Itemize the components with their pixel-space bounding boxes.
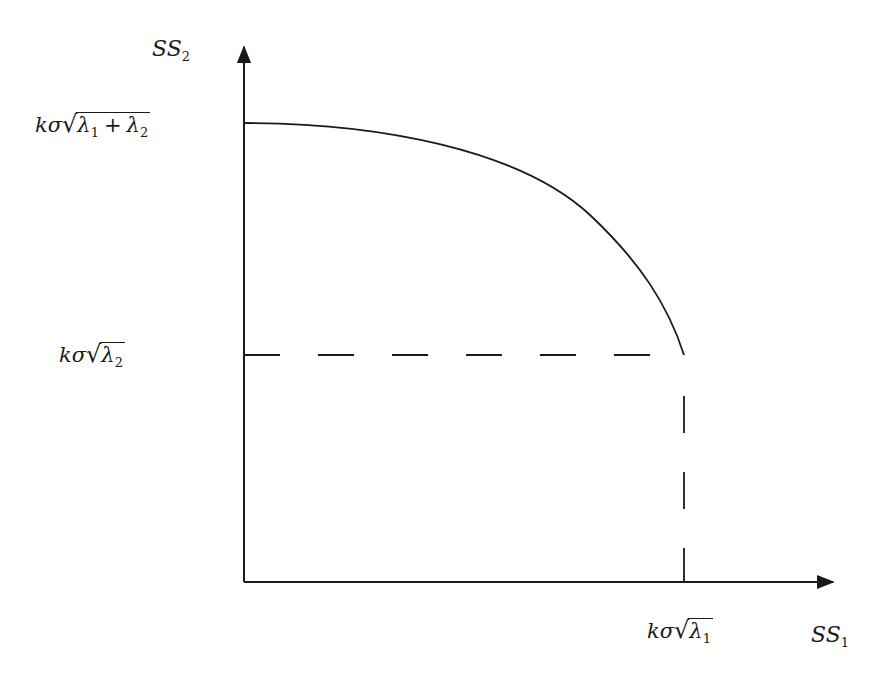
lambda-2-sub: 2 <box>140 125 148 140</box>
y-tick-upper: kσ√λ1+λ2 <box>35 112 150 139</box>
sqrt-symbol: √λ1 <box>674 618 713 645</box>
diagram-graphics <box>0 0 880 674</box>
lambda-2-sub: 2 <box>115 355 123 370</box>
x-tick: kσ√λ1 <box>647 618 713 645</box>
y-tick-upper-prefix: kσ <box>35 113 62 137</box>
y-axis-label-sub: 2 <box>182 49 190 64</box>
x-axis-label: SS1 <box>811 624 849 649</box>
x-axis-label-sub: 1 <box>841 635 849 650</box>
x-axis-label-base: SS <box>811 622 841 647</box>
y-axis-label-base: SS <box>152 36 182 61</box>
y-axis-label: SS2 <box>152 38 190 63</box>
lambda-1-sub: 1 <box>91 125 99 140</box>
plus-operator: + <box>99 113 127 137</box>
lambda-1: λ <box>689 619 702 643</box>
lambda-2: λ <box>101 343 114 367</box>
sqrt-symbol: √λ1+λ2 <box>62 112 150 139</box>
lambda-2: λ <box>127 113 140 137</box>
x-tick-prefix: kσ <box>647 619 674 643</box>
diagram-canvas: SS2 kσ√λ1+λ2 kσ√λ2 kσ√λ1 SS1 <box>0 0 880 674</box>
lambda-1-sub: 1 <box>703 631 711 646</box>
boundary-curve <box>244 123 684 355</box>
lambda-1: λ <box>77 113 90 137</box>
sqrt-symbol: √λ2 <box>86 342 125 369</box>
y-tick-lower: kσ√λ2 <box>59 342 125 369</box>
y-tick-lower-prefix: kσ <box>59 343 86 367</box>
